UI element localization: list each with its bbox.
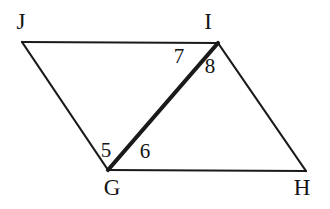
geometry-figure: J I G H 5 6 7 8 [0, 0, 330, 209]
vertex-label-I: I [196, 10, 220, 33]
vertex-label-J: J [9, 10, 33, 33]
segment-JI [22, 42, 218, 43]
angle-label-6: 6 [135, 141, 155, 162]
segment-GH [108, 170, 306, 171]
figure-canvas [0, 0, 330, 209]
angle-label-5: 5 [96, 140, 116, 161]
vertex-label-G: G [100, 176, 124, 199]
angle-label-7: 7 [169, 46, 189, 67]
vertex-label-H: H [290, 176, 314, 199]
angle-label-8: 8 [200, 56, 220, 77]
segment-IH [218, 43, 306, 171]
